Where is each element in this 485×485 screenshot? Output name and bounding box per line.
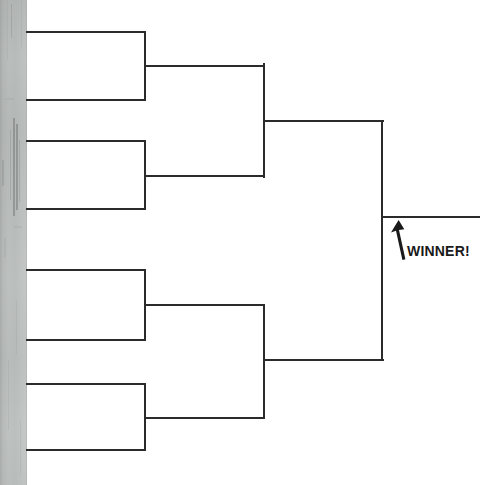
scan-streak-faint-5 [4,238,6,258]
scan-streak-soft-4 [11,4,12,38]
seed-4-slot-line[interactable] [26,208,145,210]
match-4-advance-line[interactable] [144,417,265,419]
scan-streak-faint-6 [16,300,17,354]
seed-1-slot-line[interactable] [26,31,145,33]
scan-streak-faint-7 [8,360,9,430]
seed-8-slot-line[interactable] [26,449,145,451]
match-1-advance-line[interactable] [144,65,265,67]
winner-label: WINNER! [407,243,470,259]
semifinal-1-advance-line[interactable] [263,120,384,122]
seed-5-slot-line[interactable] [26,269,145,271]
scan-streak-soft-1 [10,130,11,200]
semifinal-2-connector [263,304,265,419]
scan-streak-faint-3 [5,98,14,100]
seed-6-slot-line[interactable] [26,339,145,341]
match-3-advance-line[interactable] [144,304,265,306]
scan-streak-soft-2 [19,140,20,202]
seed-2-slot-line[interactable] [26,99,145,101]
scan-streak-faint-2 [21,0,22,48]
semifinal-2-advance-line[interactable] [263,359,384,361]
seed-7-slot-line[interactable] [26,383,145,385]
scan-streak-faint-4 [14,226,22,228]
match-2-advance-line[interactable] [144,175,265,177]
scan-streak-faint-8 [20,420,21,475]
final-match-connector [381,121,383,361]
seed-3-slot-line[interactable] [26,140,145,142]
scan-edge-border [26,0,27,485]
bracket-page: WINNER! [0,0,485,485]
scan-streak-soft-3 [2,160,4,186]
scan-streak-faint-1 [7,0,8,60]
scan-streak-dark-2 [16,124,18,210]
scan-edge-shadow [0,0,27,485]
scan-streak-dark-1 [13,118,15,216]
